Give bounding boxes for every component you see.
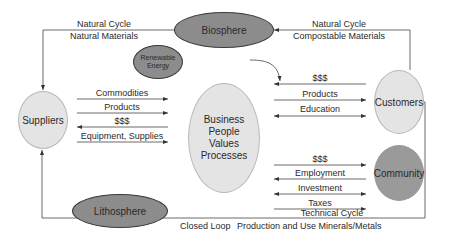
flow-label-employment: Employment <box>295 168 345 178</box>
customers-label: Customers <box>375 97 423 108</box>
natural-cycle-right-title: Natural Cycle <box>312 19 366 29</box>
technical-cycle-closed-loop: Closed Loop <box>180 221 231 231</box>
flow-label-community-money: $$$ <box>312 154 327 164</box>
biosphere-node: Biosphere <box>174 12 274 48</box>
technical-cycle-production: Production and Use Minerals/Metals <box>237 221 382 231</box>
lithosphere-node: Lithosphere <box>72 194 168 228</box>
flow-label-investment: Investment <box>298 183 342 193</box>
suppliers-node: Suppliers <box>18 91 68 149</box>
renewable-energy-label: RenewableEnergy <box>140 54 175 70</box>
flow-label-customer-products: Products <box>302 89 338 99</box>
flow-label-equipment: Equipment, Supplies <box>81 131 164 141</box>
flow-label-customer-money: $$$ <box>312 73 327 83</box>
natural-cycle-right-subtitle: Compostable Materials <box>293 31 385 41</box>
community-label: Community <box>374 168 425 179</box>
flow-label-products: Products <box>104 102 140 112</box>
natural-cycle-left-title: Natural Cycle <box>77 19 131 29</box>
flow-label-education: Education <box>300 104 340 114</box>
technical-cycle-title: Technical Cycle <box>301 208 364 218</box>
business-node: Business People Values Processes <box>188 83 260 193</box>
flow-label-money: $$$ <box>114 116 129 126</box>
flow-label-taxes: Taxes <box>308 198 332 208</box>
renewable-energy-node: RenewableEnergy <box>133 45 183 79</box>
natural-cycle-left-subtitle: Natural Materials <box>70 31 138 41</box>
lithosphere-label: Lithosphere <box>94 206 146 217</box>
business-label: Business People Values Processes <box>201 114 248 162</box>
suppliers-label: Suppliers <box>22 115 64 126</box>
biosphere-label: Biosphere <box>201 25 246 36</box>
customers-node: Customers <box>374 70 424 134</box>
community-node: Community <box>374 145 424 201</box>
flow-label-commodities: Commodities <box>96 88 149 98</box>
